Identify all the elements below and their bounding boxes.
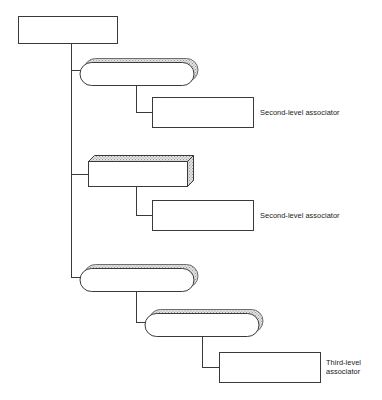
diagram-canvas [0,0,382,400]
annotation-third-level: Third-level associator [326,358,361,377]
connector-drop-pill-1 [136,82,153,112]
second-level-box-2-outline [153,201,254,231]
annotation-second-level-2: Second-level associator [260,211,340,220]
box-3d-2-front-face [89,162,188,187]
node-pill-3[interactable] [80,265,198,292]
pill-4-face [145,314,259,337]
node-pill-4[interactable] [145,310,263,337]
third-level-box-outline [220,353,321,383]
annotation-second-level-1: Second-level associator [260,108,340,117]
box-3d-2-right-face [188,156,194,187]
second-level-box-1-outline [153,98,254,128]
pill-1-face [80,63,194,86]
box-3d-2-top-face [89,156,194,162]
connector-drop-pill-4 [202,337,220,367]
node-root-box[interactable] [19,17,118,44]
node-pill-1[interactable] [80,59,198,86]
node-second-level-box-2[interactable] [153,201,254,231]
node-box-3d-2[interactable] [89,156,194,187]
diagram-root: Second-level associator Second-level ass… [0,0,382,400]
connector-drop-box-3d-2 [136,186,153,215]
root-box-outline [19,17,118,44]
pill-3-face [80,269,194,292]
node-third-level-box[interactable] [220,353,321,383]
node-second-level-box-1[interactable] [153,98,254,128]
